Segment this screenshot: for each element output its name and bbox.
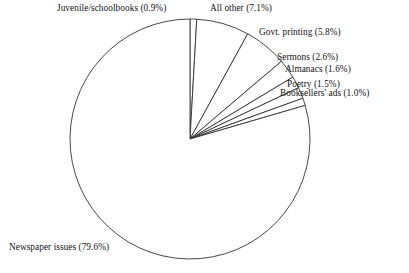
pie-label-juvenile-schoolbooks: Juvenile/schoolbooks (0.9%) <box>57 3 166 14</box>
pie-chart-figure: Juvenile/schoolbooks (0.9%) All other (7… <box>0 0 409 273</box>
pie-label-almanacs: Almanacs (1.6%) <box>285 64 351 75</box>
pie-label-sermons: Sermons (2.6%) <box>277 52 338 63</box>
pie-label-newspaper-issues: Newspaper issues (79.6%) <box>9 242 109 253</box>
pie-label-booksellers-ads: Booksellers' ads (1.0%) <box>280 88 369 99</box>
pie-label-all-other: All other (7.1%) <box>210 3 272 14</box>
pie-chart-canvas <box>0 0 409 273</box>
pie-label-govt-printing: Govt. printing (5.8%) <box>259 27 341 38</box>
pie-slice-group <box>70 19 310 259</box>
